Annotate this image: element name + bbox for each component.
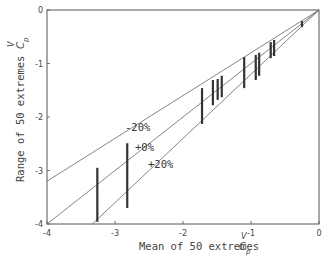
svg-text:p: p bbox=[22, 37, 30, 43]
svg-text:V: V bbox=[7, 41, 16, 47]
y-tick-label: 0 bbox=[38, 6, 43, 15]
reference-line-minus20pct bbox=[47, 10, 319, 181]
y-axis-symbol: C p V bbox=[7, 37, 30, 49]
y-tick-label: -1 bbox=[35, 60, 43, 69]
x-tick-label: -3 bbox=[111, 229, 119, 238]
y-axis-ticks: 0-1-2-3-4 bbox=[35, 6, 50, 229]
annotation-minus20pct: -20% bbox=[125, 121, 151, 133]
y-axis-title: Range of 50 extremes bbox=[14, 56, 26, 182]
reference-line-plus0pct bbox=[47, 10, 319, 224]
y-tick-label: -4 bbox=[35, 220, 43, 229]
reference-lines bbox=[47, 10, 319, 224]
y-tick-label: -3 bbox=[35, 167, 43, 176]
x-tick-label: -4 bbox=[43, 229, 51, 238]
line-annotations: -20%+0%+20% bbox=[125, 121, 174, 170]
annotation-plus20pct: +20% bbox=[148, 158, 174, 170]
y-axis-title-group: Range of 50 extremes bbox=[14, 56, 26, 182]
svg-text:p: p bbox=[245, 248, 251, 256]
x-tick-label: 0 bbox=[316, 229, 321, 238]
x-tick-label: -2 bbox=[179, 229, 187, 238]
range-vs-mean-chart: -4-3-2-10 0-1-2-3-4 -20%+0%+20% Mean of … bbox=[0, 0, 330, 262]
svg-text:C: C bbox=[239, 241, 246, 252]
x-tick-label: -1 bbox=[247, 229, 255, 238]
annotation-plus0pct: +0% bbox=[135, 141, 155, 153]
y-tick-label: -2 bbox=[35, 113, 43, 122]
svg-text:V: V bbox=[241, 232, 247, 241]
svg-text:C: C bbox=[15, 42, 26, 49]
